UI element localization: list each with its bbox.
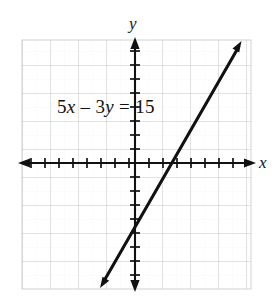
graph-figure: 5x – 3y = 15 x y bbox=[0, 0, 279, 300]
grid-layer bbox=[22, 40, 251, 289]
major-gridlines bbox=[22, 40, 251, 289]
x-axis-label: x bbox=[259, 153, 267, 173]
equation-coefficient-x: 5 bbox=[57, 96, 67, 117]
equation-annotation: 5x – 3y = 15 bbox=[57, 96, 155, 118]
coordinate-plane bbox=[0, 0, 279, 300]
equation-variable-x: x bbox=[67, 96, 76, 117]
equation-variable-y: y bbox=[105, 96, 114, 117]
equation-coefficient-y: 3 bbox=[95, 96, 105, 117]
equation-right-hand-side: 15 bbox=[135, 96, 155, 117]
equation-minus-sign: – bbox=[76, 96, 96, 117]
y-axis-label: y bbox=[129, 14, 137, 34]
equation-equals-sign: = bbox=[114, 96, 135, 117]
